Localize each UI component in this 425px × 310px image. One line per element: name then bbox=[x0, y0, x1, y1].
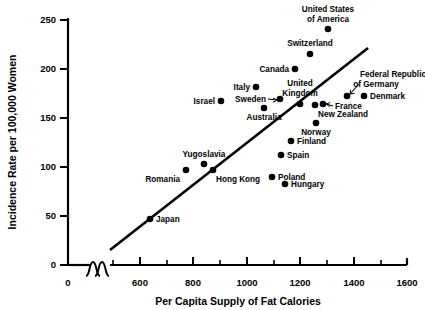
label-israel: Israel bbox=[194, 97, 215, 106]
label-frg-line1: Federal Republic bbox=[360, 70, 425, 79]
label-united-kingdom-line2: Kingdom bbox=[282, 89, 317, 98]
data-point-spain[interactable] bbox=[278, 152, 285, 159]
label-usa-line2: of America bbox=[307, 15, 349, 24]
label-new-zealand: New Zealand bbox=[318, 110, 368, 119]
x-axis-tick-labels: 0 600 800 1000 1200 1400 1600 bbox=[65, 277, 417, 288]
x-tick-label-1600: 1600 bbox=[396, 277, 417, 288]
x-tick-label-0: 0 bbox=[65, 277, 70, 288]
y-tick-label-0: 0 bbox=[51, 259, 56, 270]
data-point-new-zealand[interactable] bbox=[312, 102, 319, 109]
label-romania: Romania bbox=[145, 175, 180, 184]
data-point-norway[interactable] bbox=[313, 120, 320, 127]
label-italy: Italy bbox=[234, 83, 251, 92]
data-point-finland[interactable] bbox=[288, 138, 295, 145]
data-point-japan[interactable] bbox=[147, 216, 154, 223]
label-sweden: Sweden bbox=[235, 95, 266, 104]
label-japan: Japan bbox=[156, 215, 180, 224]
y-tick-label-100: 100 bbox=[40, 161, 56, 172]
y-axis-title: Incidence Rate per 100,000 Women bbox=[6, 55, 18, 230]
x-axis-major-ticks bbox=[140, 257, 354, 265]
x-tick-label-1400: 1400 bbox=[343, 277, 364, 288]
data-point-australia[interactable] bbox=[261, 105, 268, 112]
data-point-yugoslavia[interactable] bbox=[201, 161, 208, 168]
label-france: France bbox=[335, 102, 362, 111]
data-point-united-kingdom[interactable] bbox=[297, 101, 304, 108]
label-denmark: Denmark bbox=[370, 92, 405, 101]
data-point-romania[interactable] bbox=[183, 167, 190, 174]
data-point-federal-republic-of-germany[interactable] bbox=[344, 93, 351, 100]
plot-area: 0 50 100 150 200 250 0 600 800 1000 1200… bbox=[0, 0, 425, 310]
label-switzerland: Switzerland bbox=[287, 39, 333, 48]
label-united-kingdom-line1: United bbox=[287, 79, 312, 88]
label-finland: Finland bbox=[297, 137, 326, 146]
y-tick-label-250: 250 bbox=[40, 14, 56, 25]
axis-lines bbox=[68, 18, 407, 265]
point-labels: Japan Romania Yugoslavia Hong Kong Hunga… bbox=[145, 5, 425, 224]
y-tick-label-150: 150 bbox=[40, 112, 56, 123]
data-point-israel[interactable] bbox=[218, 98, 225, 105]
data-point-usa[interactable] bbox=[325, 26, 332, 33]
label-norway: Norway bbox=[301, 128, 331, 137]
y-axis-ticks bbox=[60, 20, 68, 265]
x-tick-label-600: 600 bbox=[132, 277, 148, 288]
scatter-chart: 0 50 100 150 200 250 0 600 800 1000 1200… bbox=[0, 0, 425, 310]
label-frg-line2: of Germany bbox=[353, 80, 399, 89]
data-point-switzerland[interactable] bbox=[307, 51, 314, 58]
label-poland: Poland bbox=[278, 173, 305, 182]
x-tick-label-1000: 1000 bbox=[236, 277, 257, 288]
data-point-denmark[interactable] bbox=[361, 93, 368, 100]
label-spain: Spain bbox=[287, 151, 309, 160]
data-point-canada[interactable] bbox=[292, 66, 299, 73]
y-tick-label-200: 200 bbox=[40, 63, 56, 74]
y-axis-tick-labels: 0 50 100 150 200 250 bbox=[40, 14, 56, 270]
label-yugoslavia: Yugoslavia bbox=[183, 150, 226, 159]
label-hong-kong: Hong Kong bbox=[216, 175, 260, 184]
data-point-hong-kong[interactable] bbox=[210, 167, 217, 174]
data-point-italy[interactable] bbox=[253, 84, 260, 91]
y-tick-label-50: 50 bbox=[45, 210, 56, 221]
label-australia: Australia bbox=[246, 113, 281, 122]
x-axis-title: Per Capita Supply of Fat Calories bbox=[155, 295, 321, 307]
data-point-france[interactable] bbox=[320, 101, 327, 108]
data-points bbox=[147, 26, 368, 223]
data-point-poland[interactable] bbox=[269, 174, 276, 181]
label-canada: Canada bbox=[259, 65, 289, 74]
x-tick-label-1200: 1200 bbox=[289, 277, 310, 288]
x-tick-label-800: 800 bbox=[185, 277, 201, 288]
label-usa-line1: United States bbox=[302, 5, 355, 14]
